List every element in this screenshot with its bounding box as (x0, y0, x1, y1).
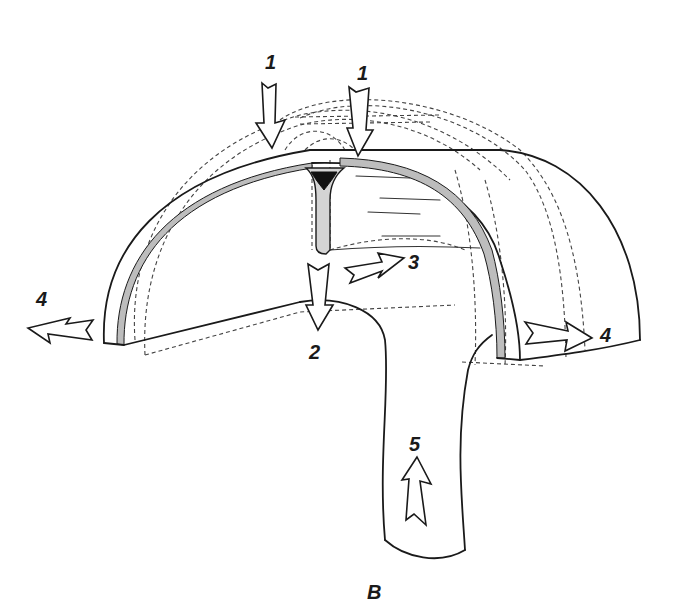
label-force-4-left: 4 (36, 289, 47, 309)
arrow-2-down-icon (306, 264, 333, 330)
label-force-4-right: 4 (600, 325, 611, 345)
label-force-1-right: 1 (357, 63, 368, 83)
arrow-4-right-icon (525, 322, 592, 351)
t-web (306, 168, 480, 254)
arrow-5-up-icon (402, 457, 431, 525)
leg-member-b (300, 300, 492, 558)
diagram-canvas (0, 0, 678, 616)
arrow-3-right-icon (345, 253, 404, 283)
label-force-2: 2 (309, 342, 320, 362)
arrow-1-right-down-icon (347, 87, 373, 156)
arch-flange-right (310, 150, 640, 360)
arrow-4-left-icon (28, 318, 93, 343)
label-force-5: 5 (409, 434, 420, 454)
label-part-b: B (367, 582, 381, 602)
label-force-3: 3 (408, 252, 419, 272)
label-force-1-left: 1 (265, 52, 276, 72)
arrow-1-left-down-icon (256, 83, 285, 148)
